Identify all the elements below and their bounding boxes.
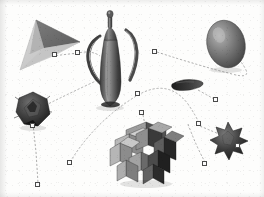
connector-lower-right[interactable] [188, 124, 205, 162]
pitcher-object[interactable] [88, 10, 137, 107]
handle-egg-left[interactable] [152, 49, 157, 54]
handle-cone-link[interactable] [75, 50, 80, 55]
handle-curve-lower-right[interactable] [202, 161, 207, 166]
egg-body [202, 16, 250, 72]
cube-lobe-l-side [110, 143, 120, 166]
3d-scene-viewport[interactable] [0, 0, 264, 197]
connector-pitcher-to-polyhedron[interactable] [48, 80, 98, 104]
blade-body [172, 80, 204, 91]
handle-polyhedron-bottom[interactable] [30, 123, 35, 128]
cube-cluster-object[interactable] [110, 122, 184, 184]
handle-arc-left[interactable] [67, 160, 72, 165]
pitcher-shoulder [104, 27, 117, 40]
handle-pitcher-lower[interactable] [135, 91, 140, 96]
pitcher-finial [107, 10, 113, 17]
pitcher-body [100, 40, 121, 106]
cube-lobe-bl-side [117, 160, 126, 181]
handle-blade-right[interactable] [213, 97, 218, 102]
handle-cluster-top[interactable] [139, 110, 144, 115]
connector-blade-trail[interactable] [198, 90, 214, 99]
handle-chain-bottom[interactable] [35, 182, 40, 187]
scene-canvas[interactable] [0, 0, 264, 197]
connector-polyhedron-drop[interactable] [33, 124, 38, 183]
blade-object[interactable] [172, 80, 204, 91]
pitcher-finial-highlight [108, 11, 110, 14]
handle-cone-right[interactable] [52, 52, 57, 57]
cone-object[interactable] [20, 20, 80, 70]
handle-arc-right[interactable] [196, 121, 201, 126]
egg-object[interactable] [202, 16, 250, 72]
handle-star-corner[interactable] [235, 143, 240, 148]
star-polyhedron-object[interactable] [210, 122, 248, 160]
